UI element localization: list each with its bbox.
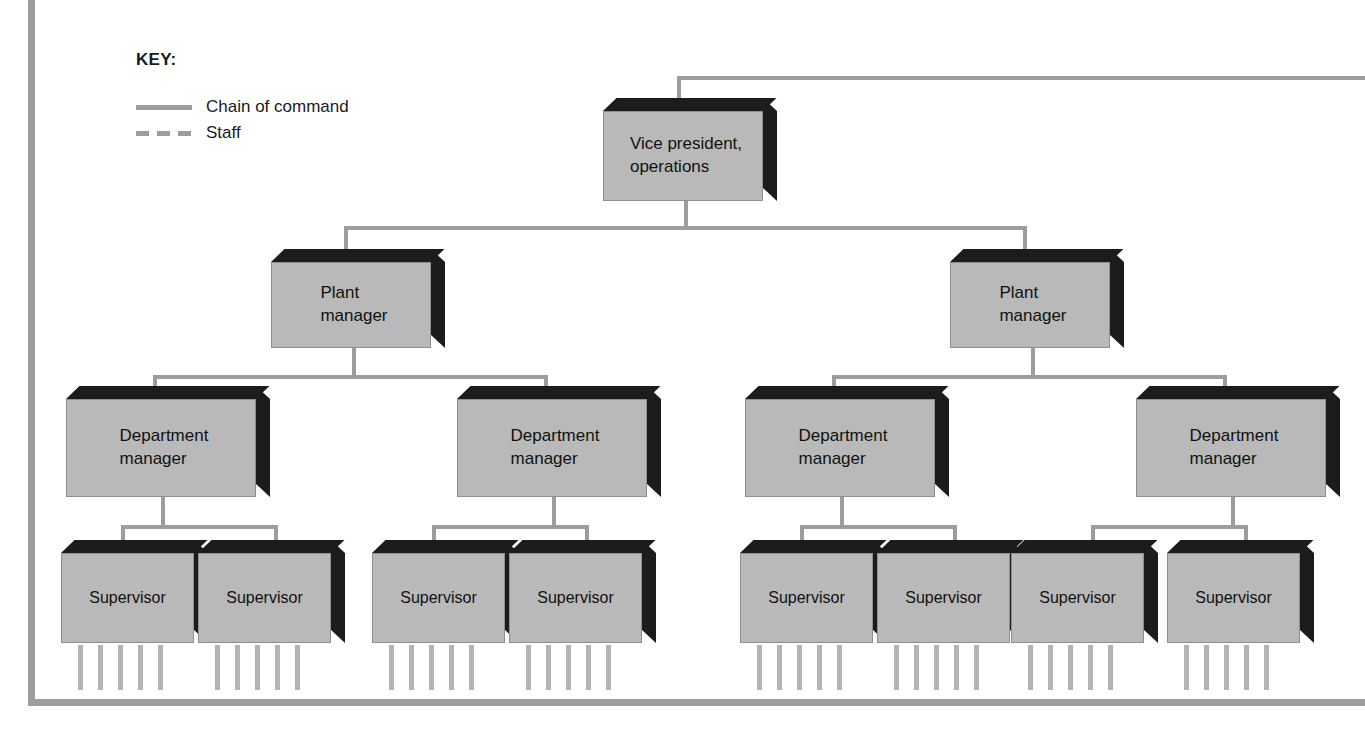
staff-line bbox=[1048, 645, 1053, 690]
box-top-bevel bbox=[1136, 386, 1339, 399]
box-top-bevel bbox=[745, 386, 948, 399]
node-plant-manager-left[interactable]: Plant manager bbox=[271, 262, 431, 348]
staff-line bbox=[777, 645, 782, 690]
node-supervisor-3[interactable]: Supervisor bbox=[372, 553, 505, 643]
node-supervisor-4[interactable]: Supervisor bbox=[509, 553, 642, 643]
node-label-line1: Plant bbox=[999, 283, 1038, 302]
node-label-line2: manager bbox=[511, 449, 578, 468]
box-top-bevel bbox=[740, 540, 886, 553]
box-top-bevel bbox=[877, 540, 1023, 553]
box-right-bevel bbox=[642, 540, 656, 643]
box-top-bevel bbox=[950, 249, 1123, 262]
staff-line bbox=[78, 645, 83, 690]
connector-dept-bus-right bbox=[832, 375, 1227, 379]
staff-line bbox=[409, 645, 414, 690]
box-right-bevel bbox=[763, 98, 777, 201]
staff-line bbox=[255, 645, 260, 690]
node-face: Department manager bbox=[1136, 399, 1326, 497]
staff-line bbox=[389, 645, 394, 690]
legend: KEY: Chain of command Staff bbox=[136, 50, 349, 146]
node-supervisor-2[interactable]: Supervisor bbox=[198, 553, 331, 643]
node-vice-president-operations[interactable]: Vice president, operations bbox=[603, 111, 763, 201]
connector-vp-down bbox=[684, 200, 688, 228]
box-top-bevel bbox=[61, 540, 207, 553]
box-top-bevel bbox=[271, 249, 444, 262]
node-face: Department manager bbox=[457, 399, 647, 497]
box-top-bevel bbox=[457, 386, 660, 399]
box-top-bevel bbox=[1167, 540, 1313, 553]
connector-plant-bus bbox=[344, 226, 1027, 230]
node-label: Supervisor bbox=[768, 587, 844, 609]
connector-dept-bus-left bbox=[153, 375, 548, 379]
node-label-line1: Department bbox=[1190, 426, 1279, 445]
staff-line bbox=[235, 645, 240, 690]
node-face: Supervisor bbox=[740, 553, 873, 643]
node-label: Department manager bbox=[793, 425, 888, 471]
connector-plant-left-down bbox=[352, 348, 356, 377]
node-department-manager-1[interactable]: Department manager bbox=[66, 399, 256, 497]
node-face: Plant manager bbox=[950, 262, 1110, 348]
node-label-line2: manager bbox=[320, 306, 387, 325]
staff-line bbox=[295, 645, 300, 690]
staff-line bbox=[118, 645, 123, 690]
box-right-bevel bbox=[431, 249, 445, 348]
staff-line bbox=[797, 645, 802, 690]
staff-line bbox=[1244, 645, 1249, 690]
node-face: Supervisor bbox=[372, 553, 505, 643]
node-department-manager-4[interactable]: Department manager bbox=[1136, 399, 1326, 497]
staff-line bbox=[914, 645, 919, 690]
node-label: Supervisor bbox=[905, 587, 981, 609]
node-face: Vice president, operations bbox=[603, 111, 763, 201]
node-label-line2: operations bbox=[630, 157, 709, 176]
node-label: Plant manager bbox=[993, 282, 1066, 328]
node-label-line1: Plant bbox=[320, 283, 359, 302]
staff-line bbox=[974, 645, 979, 690]
connector-dept4-down bbox=[1231, 497, 1235, 527]
staff-line bbox=[429, 645, 434, 690]
staff-line bbox=[586, 645, 591, 690]
staff-line bbox=[275, 645, 280, 690]
box-right-bevel bbox=[1144, 540, 1158, 643]
connector-dept1-down bbox=[161, 497, 165, 527]
node-department-manager-2[interactable]: Department manager bbox=[457, 399, 647, 497]
staff-line bbox=[837, 645, 842, 690]
node-face: Supervisor bbox=[1167, 553, 1300, 643]
staff-line bbox=[817, 645, 822, 690]
legend-item-chain-of-command: Chain of command bbox=[136, 94, 349, 120]
node-supervisor-5[interactable]: Supervisor bbox=[740, 553, 873, 643]
node-supervisor-1[interactable]: Supervisor bbox=[61, 553, 194, 643]
legend-label-chain-of-command: Chain of command bbox=[206, 97, 349, 117]
frame-bottom-rule bbox=[28, 699, 1365, 706]
legend-label-staff: Staff bbox=[206, 123, 241, 143]
connector-sup-bus-4 bbox=[1091, 525, 1248, 529]
connector-plant-right-down bbox=[1031, 348, 1035, 377]
staff-line bbox=[546, 645, 551, 690]
node-supervisor-8[interactable]: Supervisor bbox=[1167, 553, 1300, 643]
node-face: Department manager bbox=[745, 399, 935, 497]
node-face: Plant manager bbox=[271, 262, 431, 348]
node-department-manager-3[interactable]: Department manager bbox=[745, 399, 935, 497]
node-label: Supervisor bbox=[89, 587, 165, 609]
node-label-line1: Department bbox=[799, 426, 888, 445]
frame-left-rule bbox=[28, 0, 35, 706]
node-label: Department manager bbox=[505, 425, 600, 471]
node-supervisor-6[interactable]: Supervisor bbox=[877, 553, 1010, 643]
staff-line bbox=[98, 645, 103, 690]
box-top-bevel bbox=[372, 540, 518, 553]
node-label: Plant manager bbox=[314, 282, 387, 328]
box-right-bevel bbox=[1326, 386, 1340, 497]
box-top-bevel bbox=[603, 98, 776, 111]
box-right-bevel bbox=[935, 386, 949, 497]
node-label: Supervisor bbox=[226, 587, 302, 609]
staff-line bbox=[526, 645, 531, 690]
box-right-bevel bbox=[256, 386, 270, 497]
staff-line bbox=[1068, 645, 1073, 690]
node-face: Supervisor bbox=[198, 553, 331, 643]
node-plant-manager-right[interactable]: Plant manager bbox=[950, 262, 1110, 348]
node-label: Department manager bbox=[114, 425, 209, 471]
connector-dept2-down bbox=[552, 497, 556, 527]
box-top-bevel bbox=[198, 540, 344, 553]
node-label-line1: Vice president, bbox=[630, 134, 742, 153]
staff-line bbox=[449, 645, 454, 690]
node-supervisor-7[interactable]: Supervisor bbox=[1011, 553, 1144, 643]
